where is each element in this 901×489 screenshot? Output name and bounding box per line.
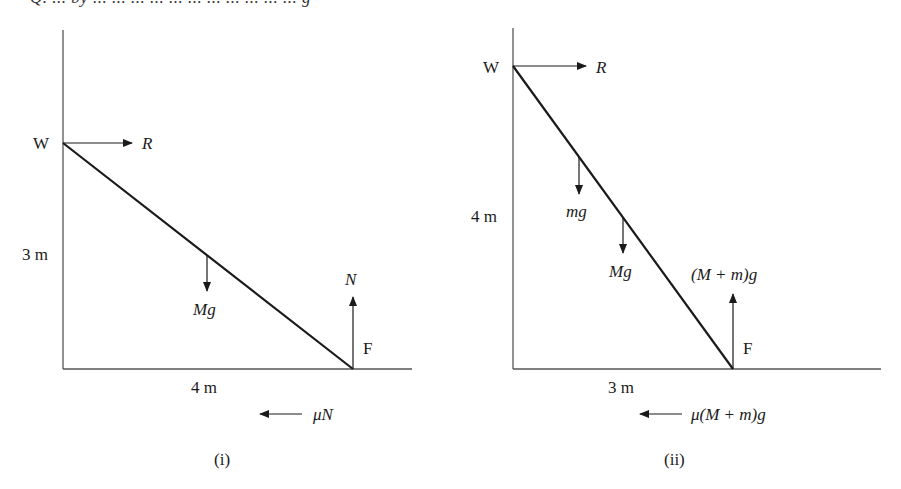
diagram-i bbox=[63, 30, 412, 414]
friction-label-i: μN bbox=[313, 406, 333, 423]
point-w-label-ii: W bbox=[483, 59, 499, 76]
caption-i: (i) bbox=[214, 451, 230, 468]
width-label-ii: 3 m bbox=[608, 379, 634, 396]
point-f-label-ii: F bbox=[743, 340, 752, 357]
ladder-diagrams: Q. ... by ... ... ... ... ... ... ... ..… bbox=[0, 0, 901, 489]
normal-label-i: N bbox=[345, 271, 356, 288]
height-label-ii: 4 m bbox=[471, 208, 497, 225]
caption-ii: (ii) bbox=[664, 451, 685, 468]
weight-label-i: Mg bbox=[193, 301, 216, 318]
point-w-label-i: W bbox=[33, 135, 49, 152]
reaction-label-ii: R bbox=[596, 59, 606, 76]
friction-label-ii: μ(M + m)g bbox=[691, 406, 766, 423]
point-f-label-i: F bbox=[363, 340, 372, 357]
diagram-ii bbox=[513, 28, 881, 414]
height-label-i: 3 m bbox=[22, 246, 48, 263]
weight-label-ii: Mg bbox=[609, 263, 632, 280]
normal-label-ii: (M + m)g bbox=[691, 266, 757, 283]
width-label-i: 4 m bbox=[191, 379, 217, 396]
reaction-label-i: R bbox=[142, 135, 152, 152]
ladder-i bbox=[63, 143, 353, 369]
man-weight-label-ii: mg bbox=[566, 203, 587, 220]
